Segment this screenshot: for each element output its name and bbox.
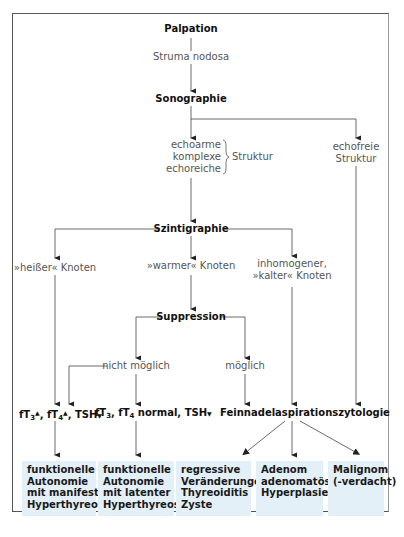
ft4-text: fT — [118, 407, 129, 418]
ft3-text: fT — [19, 409, 30, 420]
node-suppression: Suppression — [156, 311, 226, 323]
tsh-text: TSH — [75, 409, 97, 420]
ft3-text: fT — [95, 407, 106, 418]
label-komplexe: komplexe — [164, 151, 221, 163]
label-echofreie: echofreie — [333, 141, 380, 153]
result-line: mit manifester — [27, 487, 96, 499]
result-line: Veränderungen — [181, 476, 251, 488]
label-echoreiche: echoreiche — [164, 163, 221, 175]
result-line: Adenom — [261, 464, 323, 476]
label-warmer-knoten: »warmer« Knoten — [147, 260, 236, 272]
label-inhomogener: inhomogener, — [252, 258, 331, 270]
node-feinnadelaspirationszytologie: Feinnadelaspirationszytologie — [220, 407, 390, 419]
result-line: Autonomie — [103, 476, 174, 488]
label-struktur: Struktur — [232, 151, 273, 163]
label-echo-types: echoarme komplexe echoreiche — [164, 139, 221, 175]
result-box-malignom: Malignom (-verdacht) — [328, 461, 384, 516]
label-lab-manifest: fT3▲, fT4▲, TSH▼ — [19, 407, 102, 424]
label-lab-latent: fT3, fT4 normal, TSH▼ — [95, 407, 212, 422]
result-line: Autonomie — [27, 476, 96, 488]
result-box-latent-hyperthyreose: funktionelle Autonomie mit latenter Hype… — [98, 461, 174, 516]
label-moeglich: möglich — [225, 360, 265, 372]
result-line: (-verdacht) — [333, 476, 384, 488]
arrow-down-icon: ▼ — [207, 410, 212, 417]
node-sonographie: Sonographie — [155, 93, 226, 105]
separator: , — [68, 409, 75, 420]
label-echofrei-struktur: Struktur — [333, 153, 380, 165]
result-line: Malignom — [333, 464, 384, 476]
result-line: adenomatöse — [261, 476, 323, 488]
separator: , — [40, 409, 47, 420]
result-box-regressive: regressive Veränderungen Thyreoiditis Zy… — [176, 461, 251, 516]
result-line: Hyperplasie — [261, 487, 323, 499]
result-line: Hyperthyreose — [103, 499, 174, 511]
result-line: funktionelle — [27, 464, 96, 476]
label-kalter: »kalter« Knoten — [252, 270, 331, 282]
label-echofreie-struktur: echofreie Struktur — [333, 141, 380, 165]
label-kalter-knoten: inhomogener, »kalter« Knoten — [252, 258, 331, 282]
result-line: funktionelle — [103, 464, 174, 476]
node-szintigraphie: Szintigraphie — [153, 223, 228, 235]
result-line: Zyste — [181, 499, 251, 511]
result-line: Thyreoiditis — [181, 487, 251, 499]
result-box-adenom: Adenom adenomatöse Hyperplasie — [256, 461, 323, 516]
result-line: mit latenter — [103, 487, 174, 499]
label-nicht-moeglich: nicht möglich — [102, 360, 170, 372]
label-struma-nodosa: Struma nodosa — [153, 51, 229, 63]
result-box-manifest-hyperthyreose: funktionelle Autonomie mit manifester Hy… — [22, 461, 96, 516]
node-palpation: Palpation — [164, 23, 217, 35]
result-line: regressive — [181, 464, 251, 476]
ft4-text: fT — [47, 409, 58, 420]
normal-tsh-text: normal, TSH — [134, 407, 207, 418]
result-line: Hyperthyreose — [27, 499, 96, 511]
label-echoarme: echoarme — [164, 139, 221, 151]
label-heisser-knoten: »heißer« Knoten — [14, 262, 96, 274]
